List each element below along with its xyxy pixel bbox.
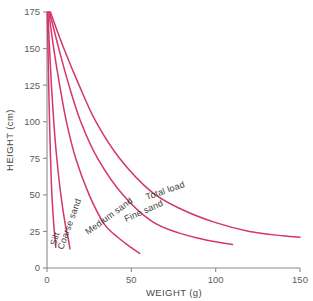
curve-label-total-load: Total load — [144, 179, 186, 202]
y-tick-label: 25 — [29, 226, 40, 237]
x-axis-title: WEIGHT (g) — [146, 287, 202, 298]
x-tick-label: 0 — [44, 274, 49, 285]
axis-titles-group: WEIGHT (g)HEIGHT (cm) — [4, 109, 202, 298]
y-axis-title: HEIGHT (cm) — [4, 109, 15, 171]
y-tick-label: 100 — [24, 116, 40, 127]
y-tick-label: 125 — [24, 80, 40, 91]
curve-total-load — [50, 12, 300, 237]
chart-canvas: 0255075100125150175050100150 SiltCoarse … — [0, 0, 313, 301]
y-tick-label: 175 — [24, 6, 40, 17]
curves-group — [47, 12, 300, 253]
y-tick-label: 150 — [24, 43, 40, 54]
y-tick-label: 50 — [29, 189, 40, 200]
x-tick-label: 150 — [292, 274, 308, 285]
y-tick-label: 0 — [35, 262, 40, 273]
x-tick-label: 50 — [126, 274, 137, 285]
x-tick-label: 100 — [208, 274, 224, 285]
chart-figure: 0255075100125150175050100150 SiltCoarse … — [0, 0, 313, 301]
y-tick-label: 75 — [29, 153, 40, 164]
